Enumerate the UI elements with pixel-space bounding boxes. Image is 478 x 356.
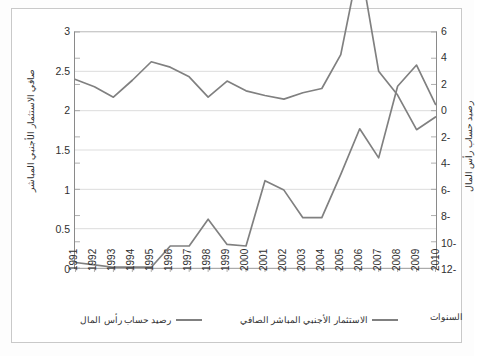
- legend-line-swatch: [176, 319, 202, 321]
- x-axis-title: السنوات: [430, 312, 463, 322]
- y-axis-left-tick-label: 1.5: [55, 144, 70, 156]
- x-axis-tick-label: 1993: [106, 249, 117, 271]
- series-layer: [75, 32, 436, 268]
- x-axis-tick-label: 2005: [334, 249, 345, 271]
- x-axis-tick-label: 2003: [296, 249, 307, 271]
- legend-item-label: رصيد حساب رأس المال: [80, 315, 171, 325]
- y-axis-left-tick-label: 2.5: [55, 65, 70, 77]
- legend-item-2[interactable]: رصيد حساب رأس المال: [80, 315, 201, 325]
- x-axis-tick-label: 1991: [68, 249, 79, 271]
- x-axis-tick-label: 1994: [125, 249, 136, 271]
- x-axis-tick-label: 2002: [277, 249, 288, 271]
- x-axis-ticks: 1991199219931994199519961997199819992000…: [74, 271, 437, 309]
- x-axis-tick-label: 1995: [144, 249, 155, 271]
- y-axis-left-tick-label: 1: [64, 184, 70, 196]
- y-axis-left-tick-label: 2: [64, 104, 70, 116]
- y-axis-left-tick-label: 0.5: [55, 223, 70, 235]
- chart-legend: الاستثمار الأجنبي المباشر الصافيرصيد حسا…: [74, 312, 404, 328]
- y-axis-right-tick-label: 0: [441, 104, 447, 116]
- x-axis-tick-label: 1999: [220, 249, 231, 271]
- x-axis-tick-label: 2006: [353, 249, 364, 271]
- y-axis-right-tick-label: -8: [441, 210, 450, 222]
- y-axis-right-tick-label: -2: [441, 131, 450, 143]
- y-axis-right-tick-label: -10: [441, 237, 456, 249]
- y-axis-right-title: رصيد حساب رأس المال: [464, 101, 478, 192]
- y-axis-right-tick-label: 2: [441, 78, 447, 90]
- plot-area: [74, 31, 437, 269]
- legend-item-label: الاستثمار الأجنبي المباشر الصافي: [240, 315, 368, 325]
- x-axis-tick-label: 2004: [315, 249, 326, 271]
- figure-frame: 32.521.510.50 6420-2-4-6-8-10-12 صافي ال…: [11, 8, 462, 343]
- series-line-2: [75, 0, 435, 130]
- x-axis-tick-label: 2008: [391, 249, 402, 271]
- y-axis-right-tick-label: 4: [441, 51, 447, 63]
- x-axis-tick-label: 1998: [201, 249, 212, 271]
- legend-item-1[interactable]: الاستثمار الأجنبي المباشر الصافي: [240, 315, 398, 325]
- x-axis-tick-label: 2009: [410, 249, 421, 271]
- x-axis-tick-label: 2000: [239, 249, 250, 271]
- x-axis-tick-label: 2010: [430, 249, 441, 271]
- x-axis-tick-label: 2001: [258, 249, 269, 271]
- y-axis-left-tick-label: 3: [64, 25, 70, 37]
- x-axis-tick-label: 1992: [87, 249, 98, 271]
- y-axis-right-tick-label: -6: [441, 184, 450, 196]
- x-axis-tick-label: 1997: [182, 249, 193, 271]
- y-axis-right-tick-label: -4: [441, 157, 450, 169]
- x-axis-tick-label: 1996: [163, 249, 174, 271]
- y-axis-left-title: صافي الاستثمار الأجنبي المباشر: [26, 69, 40, 192]
- y-axis-left-ticks: 32.521.510.50: [36, 31, 70, 269]
- legend-line-swatch: [372, 319, 398, 321]
- series-line-1: [75, 65, 435, 267]
- x-axis-tick-label: 2007: [372, 249, 383, 271]
- y-axis-right-tick-label: 6: [441, 25, 447, 37]
- y-axis-right-tick-label: -12: [441, 263, 456, 275]
